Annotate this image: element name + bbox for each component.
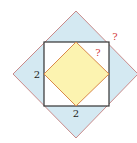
- nested-squares-diagram: 2 2 ? ?: [0, 0, 137, 143]
- bottom-side-label: 2: [73, 108, 79, 119]
- inner-diamond-question-label: ?: [95, 47, 100, 58]
- left-side-label: 2: [34, 69, 40, 80]
- outer-diamond-question-label: ?: [112, 31, 117, 42]
